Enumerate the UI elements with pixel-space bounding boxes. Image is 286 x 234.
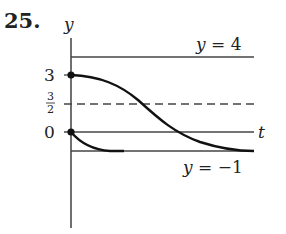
- t-axis-label: t: [258, 122, 265, 142]
- tick-label-frac-den: 2: [47, 103, 54, 116]
- tick-label-0: 0: [44, 122, 55, 142]
- initial-point-3: [67, 71, 74, 78]
- solution-curve-upper: [71, 75, 254, 151]
- tick-label-3: 3: [44, 65, 55, 85]
- problem-number: 25.: [4, 8, 41, 33]
- slope-field-solution-chart: 25. y y = 4 t y = −1 3 3 2 0: [0, 0, 286, 234]
- line-y-4-label: y = 4: [195, 34, 241, 54]
- initial-point-0: [67, 128, 74, 135]
- y-axis-label: y: [63, 14, 74, 34]
- tick-label-frac-num: 3: [47, 90, 54, 103]
- line-y-neg1-label: y = −1: [182, 157, 243, 177]
- solution-curve-lower: [71, 132, 124, 151]
